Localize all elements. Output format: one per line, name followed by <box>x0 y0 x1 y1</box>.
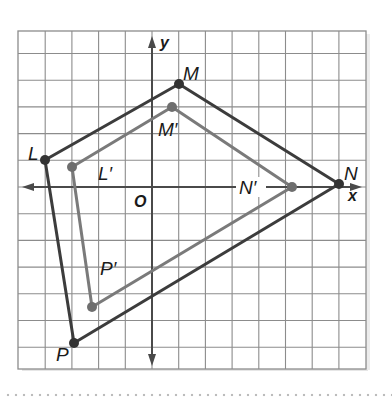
label-p-prime: P′ <box>100 258 118 279</box>
vertex-n <box>334 179 344 189</box>
vertex-p-prime <box>87 302 97 312</box>
vertex-m-prime <box>167 102 177 112</box>
label-l: L <box>28 143 39 164</box>
label-p: P <box>56 344 69 365</box>
label-l-prime: L′ <box>98 163 114 184</box>
origin-label: O <box>134 193 147 210</box>
label-n: N <box>344 163 358 184</box>
label-m: M <box>183 63 199 84</box>
x-axis-label: x <box>347 187 358 204</box>
vertex-p <box>69 338 79 348</box>
coordinate-plane: L M N P L′ M′ N′ P′ x y O <box>0 0 392 400</box>
label-n-prime: N′ <box>239 177 258 198</box>
vertex-l-prime <box>67 162 77 172</box>
vertex-n-prime <box>287 182 297 192</box>
vertex-l <box>40 155 50 165</box>
y-axis-label: y <box>159 34 170 51</box>
dotted-separator <box>4 393 392 397</box>
label-m-prime: M′ <box>158 119 179 140</box>
